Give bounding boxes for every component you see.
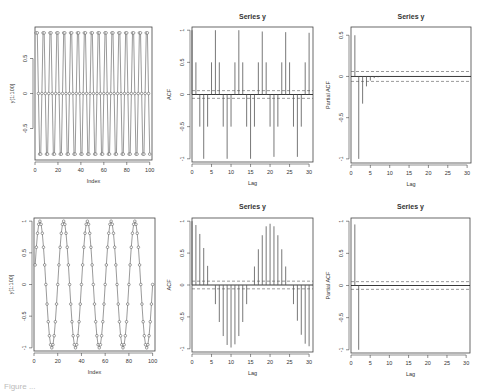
x-tick-label: 25 bbox=[444, 360, 450, 366]
x-tick-label: 0 bbox=[349, 360, 352, 366]
data-point bbox=[67, 153, 70, 156]
data-point bbox=[136, 232, 139, 235]
data-point bbox=[47, 320, 50, 323]
data-point bbox=[94, 320, 97, 323]
y-axis-label: ACF bbox=[166, 88, 172, 100]
x-tick-label: 15 bbox=[406, 360, 412, 366]
data-point bbox=[68, 92, 71, 95]
data-point bbox=[141, 303, 144, 306]
data-point bbox=[60, 232, 63, 235]
data-point bbox=[79, 303, 82, 306]
data-point bbox=[98, 32, 101, 35]
data-point bbox=[148, 153, 151, 156]
data-point bbox=[149, 320, 152, 323]
pacf-plot-bottom: Series y051015202530Lag-1-0.500.51Partia… bbox=[320, 190, 487, 380]
data-point bbox=[113, 92, 116, 95]
data-point bbox=[103, 92, 106, 95]
data-point bbox=[81, 264, 84, 267]
data-point bbox=[144, 92, 147, 95]
data-point bbox=[131, 232, 134, 235]
data-point bbox=[50, 347, 53, 350]
data-point bbox=[69, 303, 72, 306]
data-point bbox=[125, 32, 128, 35]
data-point bbox=[122, 153, 125, 156]
data-point bbox=[137, 246, 140, 249]
y-axis-label: Partial ACF bbox=[325, 80, 331, 108]
data-point bbox=[51, 92, 54, 95]
data-point bbox=[88, 232, 91, 235]
data-point bbox=[137, 92, 140, 95]
data-point bbox=[67, 264, 70, 267]
data-point bbox=[36, 32, 39, 35]
data-point bbox=[70, 32, 73, 35]
data-point bbox=[45, 283, 48, 286]
x-axis-label: Lag bbox=[248, 370, 257, 376]
data-point bbox=[53, 153, 56, 156]
data-point bbox=[92, 283, 95, 286]
x-tick-label: 20 bbox=[55, 358, 61, 364]
data-point bbox=[41, 92, 44, 95]
y-tick-label: 1 bbox=[338, 220, 344, 223]
data-point bbox=[146, 32, 149, 35]
data-point bbox=[59, 246, 62, 249]
y-tick-label: -1 bbox=[21, 345, 27, 350]
data-point bbox=[47, 92, 50, 95]
data-point bbox=[61, 92, 64, 95]
x-tick-label: 5 bbox=[369, 170, 372, 176]
data-point bbox=[86, 220, 89, 223]
series-plot-bottom: 020406080100Index-1-0.500.51y[1:100] bbox=[0, 190, 162, 380]
y-axis-label: y[1:100] bbox=[8, 274, 14, 294]
data-point bbox=[116, 283, 119, 286]
data-point bbox=[36, 232, 39, 235]
plot-frame bbox=[351, 27, 471, 163]
data-point bbox=[140, 92, 143, 95]
data-point bbox=[133, 92, 136, 95]
data-point bbox=[110, 220, 113, 223]
data-point bbox=[93, 303, 96, 306]
data-point bbox=[39, 220, 42, 223]
data-point bbox=[77, 32, 80, 35]
y-tick-label: 0 bbox=[338, 284, 344, 287]
data-point bbox=[58, 92, 61, 95]
data-point bbox=[65, 92, 68, 95]
data-point bbox=[77, 334, 80, 337]
data-point bbox=[64, 32, 67, 35]
y-tick-label: 0.5 bbox=[22, 55, 28, 63]
data-point bbox=[143, 153, 146, 156]
y-tick-label: 0.5 bbox=[21, 249, 27, 257]
data-point bbox=[64, 223, 67, 226]
data-point bbox=[106, 92, 109, 95]
x-tick-label: 0 bbox=[33, 167, 36, 173]
data-point bbox=[83, 246, 86, 249]
data-point bbox=[42, 246, 45, 249]
data-point bbox=[101, 153, 104, 156]
data-point bbox=[132, 32, 135, 35]
x-tick-label: 80 bbox=[124, 167, 130, 173]
data-point bbox=[120, 92, 123, 95]
y-tick-label: 0.5 bbox=[338, 31, 344, 39]
data-point bbox=[41, 232, 44, 235]
data-point bbox=[129, 153, 132, 156]
data-point bbox=[44, 92, 47, 95]
data-point bbox=[75, 92, 78, 95]
x-tick-label: 15 bbox=[247, 359, 253, 365]
y-axis-label: y[1:100] bbox=[9, 83, 15, 103]
data-point bbox=[143, 334, 146, 337]
x-tick-label: 20 bbox=[267, 169, 273, 175]
y-tick-label: 0 bbox=[179, 283, 185, 286]
data-point bbox=[103, 303, 106, 306]
data-point bbox=[102, 320, 105, 323]
data-point bbox=[100, 334, 103, 337]
data-point bbox=[35, 246, 38, 249]
x-tick-label: 5 bbox=[210, 359, 213, 365]
x-tick-label: 30 bbox=[463, 360, 469, 366]
data-point bbox=[87, 223, 90, 226]
data-point bbox=[53, 334, 56, 337]
x-tick-label: 30 bbox=[306, 169, 312, 175]
x-axis-label: Lag bbox=[248, 180, 257, 186]
y-tick-label: -1 bbox=[338, 347, 344, 352]
data-point bbox=[65, 232, 68, 235]
data-point bbox=[43, 32, 46, 35]
x-tick-label: 5 bbox=[369, 360, 372, 366]
x-tick-label: 25 bbox=[445, 170, 451, 176]
